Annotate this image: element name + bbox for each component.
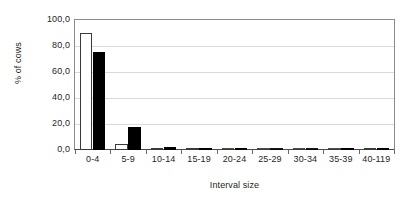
y-axis-tick-label: 80,0 <box>26 40 70 50</box>
x-axis-tick-label: 10-14 <box>146 154 181 164</box>
bar-open-35-39 <box>328 148 341 150</box>
bar-group <box>75 20 110 150</box>
bar-filled-30-34 <box>306 148 319 150</box>
bar-group <box>252 20 287 150</box>
y-axis-tick-labels: 0,020,040,060,080,0100,0 <box>20 0 70 204</box>
x-axis-tick-mark <box>75 150 76 154</box>
bar-filled-35-39 <box>341 148 354 150</box>
x-axis-tick-label: 40-119 <box>359 154 394 164</box>
x-axis-tick-mark <box>323 150 324 154</box>
x-axis-tick-mark <box>110 150 111 154</box>
y-axis-tick-label: 20,0 <box>26 118 70 128</box>
bar-group <box>323 20 358 150</box>
x-axis-tick-mark <box>146 150 147 154</box>
bar-open-25-29 <box>257 148 270 150</box>
bar-group <box>217 20 252 150</box>
x-axis-tick-mark <box>181 150 182 154</box>
x-axis-title: Interval size <box>74 180 395 190</box>
x-axis-tick-label: 15-19 <box>181 154 216 164</box>
x-axis-tick-mark <box>252 150 253 154</box>
bar-series-container <box>75 20 394 150</box>
y-axis-tick-label: 60,0 <box>26 66 70 76</box>
bar-filled-25-29 <box>270 148 283 150</box>
bar-group <box>146 20 181 150</box>
bar-group <box>110 20 145 150</box>
bar-filled-40-119 <box>377 148 390 150</box>
bar-open-0-4 <box>80 33 93 150</box>
bar-open-15-19 <box>186 148 199 150</box>
y-axis-tick-label: 100,0 <box>26 14 70 24</box>
bar-group <box>181 20 216 150</box>
bar-filled-5-9 <box>128 127 141 150</box>
bar-open-5-9 <box>115 144 128 151</box>
bar-open-40-119 <box>364 148 377 150</box>
bar-group <box>359 20 394 150</box>
x-axis-tick-label: 5-9 <box>110 154 145 164</box>
x-axis-tick-label: 20-24 <box>217 154 252 164</box>
x-axis-tick-label: 30-34 <box>288 154 323 164</box>
bar-filled-0-4 <box>93 52 106 150</box>
x-axis-tick-mark <box>217 150 218 154</box>
bar-open-20-24 <box>222 148 235 150</box>
x-axis-tick-mark <box>288 150 289 154</box>
bar-filled-15-19 <box>199 148 212 150</box>
y-axis-tick-label: 0,0 <box>26 144 70 154</box>
x-axis-tick-label: 0-4 <box>75 154 110 164</box>
bar-group <box>288 20 323 150</box>
x-axis-tick-label: 35-39 <box>323 154 358 164</box>
y-axis-tick-label: 40,0 <box>26 92 70 102</box>
bar-open-10-14 <box>151 148 164 150</box>
bar-chart-figure: % of cows 0,020,040,060,080,0100,0 Inter… <box>0 0 413 204</box>
x-axis-tick-mark <box>359 150 360 154</box>
bar-filled-20-24 <box>235 148 248 150</box>
bar-open-30-34 <box>293 148 306 150</box>
x-axis-tick-mark <box>394 150 395 154</box>
bar-filled-10-14 <box>164 147 177 150</box>
x-axis-tick-label: 25-29 <box>252 154 287 164</box>
